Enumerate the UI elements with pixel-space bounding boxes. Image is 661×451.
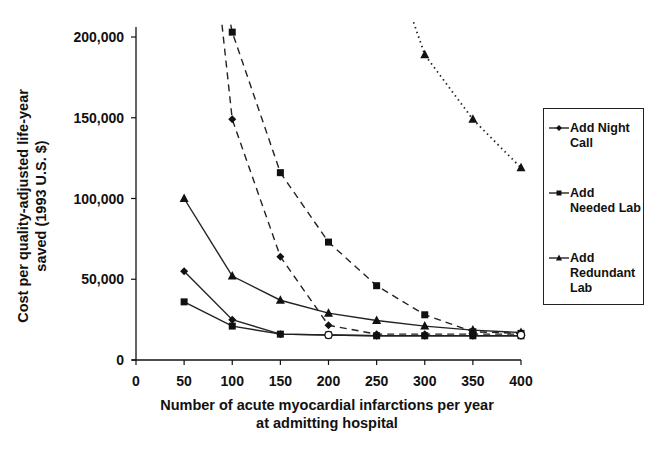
square-marker-icon <box>548 186 570 200</box>
triangle-marker <box>228 271 237 280</box>
series-layer <box>180 13 526 340</box>
x-axis-title-line1: Number of acute myocardial infarctions p… <box>160 397 494 413</box>
legend-label: Add Night Call <box>570 121 642 151</box>
x-axis-title-line2: at admitting hospital <box>256 415 398 431</box>
legend-item-needed-lab: Add Needed Lab <box>548 186 642 216</box>
y-tick-label: 0 <box>116 352 124 368</box>
series-line <box>184 199 521 333</box>
square-marker <box>277 331 284 338</box>
square-marker <box>277 169 284 176</box>
x-tick-label: 300 <box>413 373 437 389</box>
square-marker <box>373 282 380 289</box>
diamond-marker-icon <box>548 121 570 135</box>
square-marker <box>469 328 476 335</box>
legend: Add Night Call Add Needed Lab Add Redund… <box>543 108 644 305</box>
overlap-marker <box>517 331 524 338</box>
x-tick-label: 350 <box>461 373 485 389</box>
overlap-marker <box>325 331 332 338</box>
y-tick-label: 100,000 <box>73 191 124 207</box>
diamond-marker <box>228 115 236 123</box>
y-tick-label: 200,000 <box>73 29 124 45</box>
y-axis-title-line2: saved (1993 U.S. $) <box>33 140 49 272</box>
square-marker <box>325 239 332 246</box>
triangle-marker <box>420 50 429 59</box>
x-tick-label: 150 <box>269 373 293 389</box>
square-marker <box>181 298 188 305</box>
x-tick-label: 100 <box>221 373 245 389</box>
square-marker <box>229 323 236 330</box>
triangle-marker-icon <box>548 251 570 265</box>
x-tick-label: 250 <box>365 373 389 389</box>
x-tick-label: 400 <box>509 373 533 389</box>
square-marker <box>229 29 236 36</box>
legend-label: Add Needed Lab <box>570 186 642 216</box>
x-tick-label: 0 <box>132 373 140 389</box>
series-line <box>221 13 521 334</box>
y-axis-title-line1: Cost per quality-adjusted life-year <box>15 89 31 323</box>
x-tick-label: 200 <box>317 373 341 389</box>
triangle-marker <box>180 194 189 203</box>
y-tick-label: 150,000 <box>73 110 124 126</box>
x-tick-label: 50 <box>176 373 192 389</box>
square-marker <box>421 311 428 318</box>
triangle-marker <box>517 163 526 172</box>
triangle-marker <box>276 295 285 304</box>
legend-label: Add Redundant Lab <box>570 251 642 296</box>
legend-item-redundant-lab: Add Redundant Lab <box>548 251 642 296</box>
diamond-marker <box>325 321 333 329</box>
legend-item-night-call: Add Night Call <box>548 121 642 151</box>
series-line <box>410 13 521 168</box>
y-tick-label: 50,000 <box>81 271 124 287</box>
